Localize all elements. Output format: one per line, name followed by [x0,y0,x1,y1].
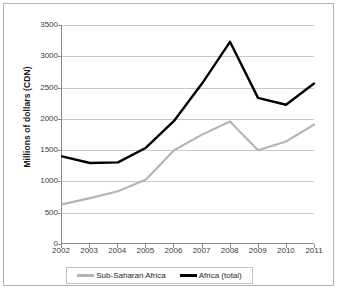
y-axis-tick-label: 500 [24,209,58,217]
x-axis-tick-label: 2006 [165,247,183,255]
plot-area [61,25,314,244]
legend-entry: Sub-Saharan Africa [77,272,165,280]
legend-label: Sub-Saharan Africa [96,272,165,280]
x-axis-tick-label: 2004 [108,247,126,255]
y-axis-tick-label: 3000 [24,52,58,60]
series-lines [62,25,314,243]
chart-screenshot: Millions of dollars (CDN) 05001000150020… [0,0,337,289]
y-axis-tick-label: 1500 [24,146,58,154]
x-axis-tick-label: 2002 [52,247,70,255]
x-axis-tick-label: 2009 [249,247,267,255]
x-axis-ticks: 2002200320042005200620072008200920102011 [61,247,314,261]
legend-swatch [180,274,197,277]
legend-swatch [77,274,94,277]
y-axis-tick-label: 2500 [24,84,58,92]
x-axis-tick-label: 2005 [136,247,154,255]
y-axis-ticks: 0500100015002000250030003500 [20,25,58,244]
chart-frame: Millions of dollars (CDN) 05001000150020… [3,3,334,286]
x-axis-tick-label: 2010 [277,247,295,255]
legend-label: Africa (total) [199,272,242,280]
x-axis-tick-label: 2007 [193,247,211,255]
x-axis-tick-label: 2011 [305,247,322,255]
legend-entry: Africa (total) [180,272,242,280]
y-axis-tick-label: 3500 [24,21,58,29]
x-axis-tick-label: 2003 [80,247,98,255]
x-axis-tick-label: 2008 [221,247,239,255]
y-axis-tick-label: 1000 [24,177,58,185]
y-axis-tick-label: 2000 [24,115,58,123]
chart-legend: Sub-Saharan AfricaAfrica (total) [66,267,253,284]
